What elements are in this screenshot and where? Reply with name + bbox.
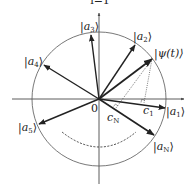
label-cN: cN [107, 111, 119, 125]
label-a3: |a3⟩ [80, 20, 99, 34]
projection-line-c1 [144, 59, 152, 103]
vector-a3 [91, 35, 99, 99]
label-psi: |ψ(t)⟩ [154, 47, 184, 61]
state-vector-diagram: i=1 0 |a1⟩ |a2⟩ |a3⟩ |a4⟩ |a5⟩ |aN⟩ |ψ(t… [0, 0, 194, 192]
vector-psi [99, 59, 152, 99]
right-angle-cN [114, 104, 119, 107]
label-a4: |a4⟩ [24, 55, 43, 69]
origin-label: 0 [91, 102, 98, 115]
vector-a4 [44, 65, 99, 99]
label-aN: |aN⟩ [153, 140, 174, 154]
label-a1: |a1⟩ [166, 105, 185, 119]
vector-a1 [99, 99, 165, 108]
vector-a5 [39, 99, 99, 124]
label-a5: |a5⟩ [18, 121, 37, 135]
vector-a2 [99, 45, 135, 99]
label-a2: |a2⟩ [133, 30, 152, 44]
title-fragment: i=1 [90, 0, 110, 7]
